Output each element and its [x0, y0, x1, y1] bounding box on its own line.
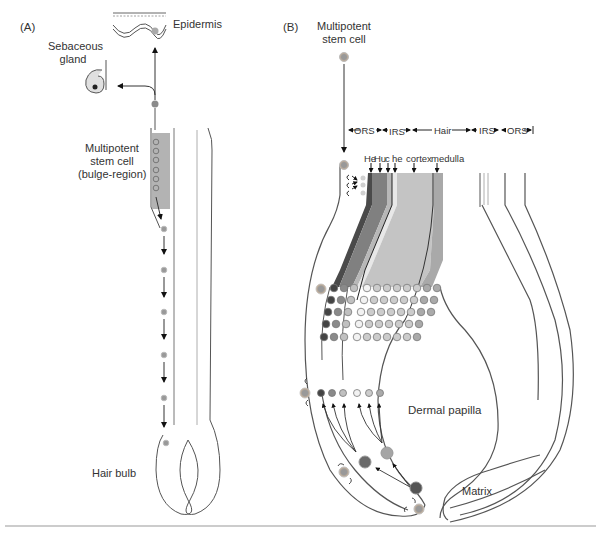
panel-a — [86, 13, 220, 514]
panel-b-label: (B) — [283, 21, 298, 34]
b-stem-cell-label: Multipotent stem cell — [313, 20, 375, 46]
matrix-label: Matrix — [462, 485, 492, 498]
bulge-stem-cell-label: Multipotent stem cell (bulge-region) — [78, 142, 146, 181]
irs-left-label: IRS — [389, 125, 405, 138]
differentiation-arrows — [305, 378, 415, 512]
layer-c-label: c — [385, 152, 390, 165]
cell-row-1 — [330, 284, 441, 292]
sebaceous-gland-label: Sebaceous gland — [48, 40, 98, 66]
cell-row-3 — [324, 308, 435, 316]
matrix-cell-grid — [316, 284, 441, 341]
self-renew-arrows — [347, 175, 357, 196]
hair-follicle-diagram — [0, 0, 601, 536]
epidermis-label: Epidermis — [173, 18, 222, 31]
ors-right-label: ORS — [507, 124, 528, 137]
cell-row-2 — [327, 296, 438, 304]
ors-left-label: ORS — [354, 124, 375, 137]
layer-he2-label: he — [392, 152, 403, 165]
cell-row-4 — [322, 320, 423, 328]
panel-a-label: (A) — [20, 21, 35, 34]
panel-b — [300, 53, 573, 523]
medulla-label: medulla — [431, 152, 464, 165]
cortex-label: cortex — [406, 152, 432, 165]
lower-cell-row — [300, 388, 384, 398]
dermal-papilla-label: Dermal papilla — [408, 404, 482, 417]
hair-bulb-label: Hair bulb — [92, 467, 136, 480]
hair-label: Hair — [434, 124, 451, 137]
migrating-cells — [161, 226, 169, 446]
cell-row-5 — [320, 333, 421, 341]
irs-right-label: IRS — [479, 124, 495, 137]
